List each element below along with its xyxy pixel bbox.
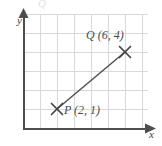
y-axis-label: y [17,15,22,26]
point-label-p: P (2, 1) [64,104,100,116]
point-label-q: Q (6, 4) [86,29,124,41]
x-axis [23,124,156,134]
plot-canvas [0,0,162,146]
x-axis-label: x [149,129,154,140]
coordinate-grid-figure: Q [0,0,162,146]
